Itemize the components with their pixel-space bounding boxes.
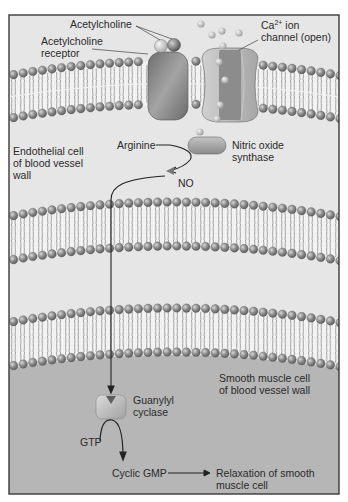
nitric-oxide-synthase	[188, 137, 226, 154]
endothelial-cell-label-line2: of blood vessel	[13, 157, 83, 170]
nitric-oxide-synthase-label-line1: Nitric oxide	[232, 139, 284, 152]
acetylcholine-molecule-2	[168, 39, 181, 52]
smooth-muscle-cell-label-line1: Smooth muscle cell	[219, 372, 310, 385]
cyclic-gmp-label: Cyclic GMP	[112, 467, 167, 480]
gtp-label: GTP	[80, 436, 102, 449]
endothelial-cell-label-line1: Endothelial cell	[13, 145, 84, 158]
smooth-muscle-cell-label-line2: of blood vessel wall	[219, 384, 310, 397]
guanylyl-cyclase-label-line2: cyclase	[133, 406, 168, 419]
acetylcholine-label: Acetylcholine	[70, 18, 132, 31]
relaxation-label-line2: muscle cell	[216, 479, 268, 492]
nitric-oxide-label: NO	[178, 177, 194, 190]
relaxation-label-line1: Relaxation of smooth	[216, 467, 315, 480]
acetylcholine-receptor-label-line2: receptor	[41, 47, 80, 60]
calcium-channel-label-line1: Ca2+ ion	[261, 19, 299, 32]
endothelial-cell-label-line3: wall	[13, 169, 31, 182]
guanylyl-cyclase	[96, 395, 126, 419]
arginine-label: Arginine	[117, 139, 156, 152]
nitric-oxide-synthase-label-line2: synthase	[232, 151, 274, 164]
acetylcholine-molecule-1	[155, 40, 168, 53]
guanylyl-cyclase-label-line1: Guanylyl	[133, 394, 174, 407]
no-signaling-diagram	[0, 0, 348, 502]
acetylcholine-receptor-label-line1: Acetylcholine	[41, 35, 103, 48]
calcium-channel-label-line2: channel (open)	[261, 31, 331, 44]
